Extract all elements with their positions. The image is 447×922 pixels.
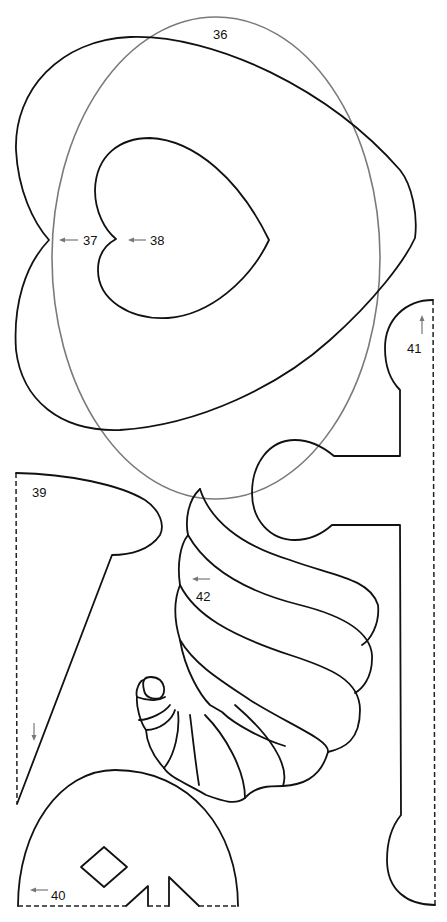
cornucopia-band bbox=[188, 535, 372, 693]
grain-arrow-icon bbox=[420, 315, 425, 334]
pedestal-outline bbox=[16, 473, 162, 804]
grain-arrow-icon bbox=[128, 238, 146, 243]
piece-42-label: 42 bbox=[196, 589, 210, 604]
piece-38-label: 38 bbox=[150, 233, 164, 248]
cornucopia-band bbox=[180, 585, 360, 752]
cornucopia-tail-segment bbox=[205, 715, 245, 798]
piece-41-label: 41 bbox=[407, 341, 421, 356]
oval-outline bbox=[52, 17, 380, 499]
piece-41-half-column: 41 bbox=[252, 300, 435, 905]
piece-40-dome: 40 bbox=[18, 770, 238, 906]
piece-36-label: 36 bbox=[213, 27, 227, 42]
dome-outline bbox=[18, 770, 238, 906]
cornucopia-tail-tip bbox=[143, 677, 164, 699]
fold-line bbox=[16, 473, 17, 804]
piece-40-label: 40 bbox=[51, 888, 65, 903]
cornucopia-tail-segment bbox=[190, 715, 199, 785]
piece-39-label: 39 bbox=[32, 485, 46, 500]
piece-37-large-heart: 37 bbox=[16, 37, 416, 430]
dome-notch bbox=[169, 877, 199, 906]
piece-39-half-pedestal: 39 bbox=[16, 473, 162, 804]
cornucopia-tail-segment bbox=[235, 705, 284, 786]
pattern-sheet: 36 37 38 41 39 bbox=[0, 0, 447, 922]
cornucopia-band bbox=[180, 640, 328, 786]
grain-arrow-icon bbox=[59, 238, 78, 243]
cornucopia-outline bbox=[176, 489, 286, 746]
grain-arrow-icon bbox=[192, 577, 210, 582]
cornucopia-tail-segment bbox=[164, 712, 178, 768]
dome-notch bbox=[126, 886, 148, 906]
piece-42-cornucopia: 42 bbox=[137, 489, 379, 802]
piece-37-label: 37 bbox=[83, 233, 97, 248]
cornucopia-tail-segment bbox=[139, 705, 170, 720]
grain-arrow-icon bbox=[32, 723, 37, 741]
piece-36-oval: 36 bbox=[52, 17, 380, 499]
piece-38-small-heart: 38 bbox=[95, 138, 269, 318]
half-column-outline bbox=[252, 300, 435, 905]
cornucopia-band bbox=[200, 489, 378, 645]
diamond-cutout bbox=[81, 847, 127, 887]
large-heart-outline bbox=[16, 37, 416, 430]
small-heart-outline bbox=[95, 138, 269, 318]
fold-line bbox=[433, 300, 435, 905]
grain-arrow-icon bbox=[30, 888, 48, 893]
